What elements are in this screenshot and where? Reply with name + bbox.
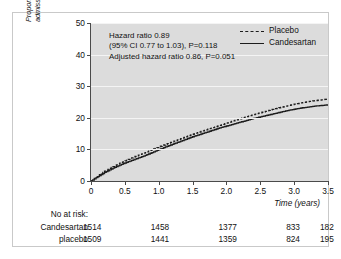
y-axis-line	[90, 23, 91, 182]
x-tick-label-3.5: 3.5	[315, 186, 341, 196]
risk-value: 824	[286, 234, 316, 244]
y-axis-title-line-1: Proportion with cardiovascular death or …	[24, 0, 33, 22]
x-tick-label-1.5: 1.5	[180, 186, 206, 196]
y-tick-mark-40	[87, 55, 90, 56]
y-tick-text: 30	[63, 81, 85, 91]
y-tick-label-40: 40	[59, 50, 85, 60]
risk-row-placebo: placebo150914411359824195	[13, 234, 328, 246]
gridline-y-30	[91, 86, 328, 87]
risk-row-label: placebo	[13, 234, 88, 244]
y-tick-text: 40	[63, 50, 85, 60]
y-tick-mark-20	[87, 118, 90, 119]
y-tick-label-10: 10	[59, 144, 85, 154]
y-tick-text: 20	[63, 113, 85, 123]
legend-label-candesartan: Candesartan	[269, 37, 316, 49]
x-tick-label-0: 0	[78, 186, 104, 196]
x-tick-mark-0.5	[125, 182, 126, 185]
y-tick-label-20: 20	[59, 113, 85, 123]
curve-candesartan	[91, 105, 328, 181]
risk-value: 182	[320, 222, 341, 232]
y-axis-title: Proportion with cardiovascular death or …	[19, 13, 49, 189]
y-tick-text: 10	[63, 144, 85, 154]
risk-value: 195	[320, 234, 341, 244]
x-tick-mark-2.5	[260, 182, 261, 185]
x-tick-mark-0	[91, 182, 92, 185]
chart-legend: Placebo Candesartan	[240, 25, 316, 49]
gridline-y-10	[91, 149, 328, 150]
legend-item-placebo: Placebo	[240, 25, 316, 37]
risk-value: 1514	[83, 222, 113, 232]
x-tick-label-1.0: 1.0	[146, 186, 172, 196]
y-tick-text: 50	[63, 18, 85, 28]
y-tick-label-30: 30	[59, 81, 85, 91]
y-tick-mark-10	[87, 149, 90, 150]
x-tick-mark-1.5	[193, 182, 194, 185]
risk-table-header: No at risk:	[13, 209, 88, 219]
risk-value: 1509	[83, 234, 113, 244]
gridline-y-20	[91, 118, 328, 119]
x-tick-mark-3.0	[294, 182, 295, 185]
gridline-y-50	[91, 23, 328, 24]
x-tick-label-2.5: 2.5	[247, 186, 273, 196]
statistics-annotation: Hazard ratio 0.89 (95% CI 0.77 to 1.03),…	[109, 31, 235, 62]
annotation-line-hazard-ratio: Hazard ratio 0.89	[109, 31, 235, 41]
curve-placebo	[91, 99, 328, 181]
legend-label-placebo: Placebo	[269, 25, 299, 37]
y-tick-label-50: 50	[59, 18, 85, 28]
risk-value: 1441	[151, 234, 181, 244]
x-tick-mark-3.5	[328, 182, 329, 185]
risk-row-label: Candesartan	[13, 222, 88, 232]
annotation-line-confidence-interval: (95% CI 0.77 to 1.03), P=0.118	[109, 41, 235, 51]
y-tick-text: 0	[63, 176, 85, 186]
figure-panel: Proportion with cardiovascular death or …	[12, 12, 329, 247]
dashed-line-icon	[240, 27, 264, 35]
risk-value: 833	[286, 222, 316, 232]
risk-value: 1359	[218, 234, 248, 244]
risk-value: 1458	[151, 222, 181, 232]
y-tick-mark-0	[87, 181, 90, 182]
y-tick-mark-30	[87, 86, 90, 87]
y-axis-title-line-2: admission for congestive heart failure (…	[33, 0, 42, 22]
x-axis-title: Time (years)	[274, 199, 320, 208]
solid-line-icon	[240, 39, 264, 47]
x-tick-label-2.0: 2.0	[213, 186, 239, 196]
x-axis-line	[90, 181, 329, 182]
risk-value: 1377	[218, 222, 248, 232]
legend-item-candesartan: Candesartan	[240, 37, 316, 49]
y-tick-mark-50	[87, 23, 90, 24]
x-tick-mark-1.0	[159, 182, 160, 185]
x-tick-label-3.0: 3.0	[281, 186, 307, 196]
x-tick-mark-2.0	[226, 182, 227, 185]
y-tick-label-0: 0	[59, 176, 85, 186]
x-tick-label-0.5: 0.5	[112, 186, 138, 196]
annotation-line-adjusted-hazard-ratio: Adjusted hazard ratio 0.86, P=0.051	[109, 52, 235, 62]
risk-row-candesartan: Candesartan151414581377833182	[13, 222, 328, 234]
